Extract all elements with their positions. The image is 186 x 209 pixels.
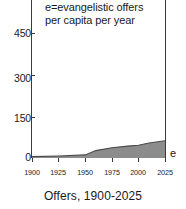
x-tick-mark-1950 <box>85 158 86 162</box>
x-tick-label-2025: 2025 <box>150 169 180 177</box>
y-tick-label-0: 0 <box>1 152 31 162</box>
x-tick-label-1950: 1950 <box>70 169 100 177</box>
y-tick-label-450: 450 <box>1 28 31 38</box>
y-tick-label-150: 150 <box>1 113 31 123</box>
x-tick-label-1925: 1925 <box>43 169 73 177</box>
chart-caption: Offers, 1900-2025 <box>0 189 186 203</box>
chart-annotation: e=evangelistic offers per capita per yea… <box>45 1 143 26</box>
x-tick-mark-1925 <box>58 158 59 162</box>
x-tick-mark-2025 <box>165 158 166 162</box>
y-tick-label-300: 300 <box>1 73 31 83</box>
x-tick-mark-2000 <box>138 158 139 162</box>
series-end-label-e: e <box>170 148 176 159</box>
x-tick-label-2000: 2000 <box>123 169 153 177</box>
x-tick-mark-1900 <box>32 158 33 162</box>
chart-figure: 450 300 150 0 1900 1925 1950 1975 2000 2… <box>0 0 186 209</box>
x-tick-mark-1975 <box>112 158 113 162</box>
